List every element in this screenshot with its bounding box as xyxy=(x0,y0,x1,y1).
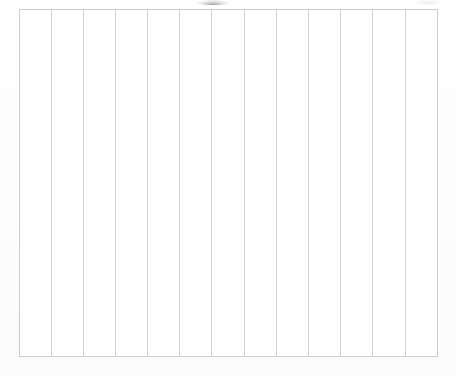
table-cell-value-8 xyxy=(245,9,276,357)
table-cell-value-12 xyxy=(373,9,405,357)
table-cell-value-6 xyxy=(180,9,211,357)
table-cell-value-7 xyxy=(212,9,244,357)
table-cell-value-9 xyxy=(277,9,308,357)
table-cell-value-4 xyxy=(116,9,147,357)
table-cell-11[interactable] xyxy=(341,9,373,357)
document-page xyxy=(0,0,456,376)
table-cell-6[interactable] xyxy=(180,9,212,357)
table-cell-8[interactable] xyxy=(245,9,277,357)
table-cell-4[interactable] xyxy=(116,9,148,357)
table-cell-5[interactable] xyxy=(148,9,180,357)
table-cell-9[interactable] xyxy=(277,9,309,357)
table-cell-value-13 xyxy=(406,9,438,357)
table-cell-12[interactable] xyxy=(373,9,406,357)
table-cell-value-5 xyxy=(148,9,179,357)
table-grid xyxy=(19,9,438,357)
table-cell-13[interactable] xyxy=(406,9,438,357)
table-cell-1[interactable] xyxy=(19,9,52,357)
table-cell-10[interactable] xyxy=(309,9,341,357)
table-cell-3[interactable] xyxy=(84,9,116,357)
scan-smudge-artifact-icon xyxy=(196,0,230,5)
table-cell-value-10 xyxy=(309,9,340,357)
table-cell-value-11 xyxy=(341,9,372,357)
table-cell-2[interactable] xyxy=(52,9,84,357)
table-cell-value-3 xyxy=(84,9,115,357)
table-cell-value-1 xyxy=(19,9,51,357)
scan-smudge-right-artifact-icon xyxy=(414,0,444,4)
table-cell-value-2 xyxy=(52,9,83,357)
table-cell-7[interactable] xyxy=(212,9,245,357)
